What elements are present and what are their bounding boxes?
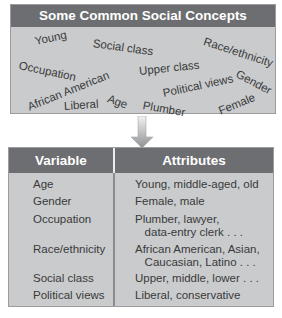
variables-table: Variable Attributes Age Young, middle-ag… [8,147,274,307]
cell-attributes: Liberal, conservative [135,289,240,302]
header-variable: Variable [9,148,113,173]
concepts-panel: Some Common Social Concepts Young Social… [10,4,276,114]
concept-word: Young [34,28,68,46]
cell-attributes: Plumber, lawyer, data-entry clerk . . . [135,213,243,239]
concept-word: Age [106,92,129,110]
header-divider [113,148,115,173]
cell-variable: Political views [33,289,105,302]
concepts-title: Some Common Social Concepts [11,5,275,27]
cell-variable: Occupation [33,213,91,226]
concept-word: Political views [162,72,235,99]
concept-word: Liberal [64,98,99,112]
down-arrow-icon [131,116,153,148]
cell-variable: Race/ethnicity [33,243,105,256]
cell-attributes: Female, male [135,195,205,208]
concept-word: Social class [92,37,154,57]
cell-variable: Social class [33,272,94,285]
concept-word: Race/ethnicity [202,35,274,69]
cell-variable: Age [33,178,53,191]
concept-word: Female [217,91,257,116]
concept-word: Gender [234,68,274,97]
header-attributes: Attributes [115,148,273,173]
cell-attributes: Upper, middle, lower . . . [135,272,259,285]
concept-word: Upper class [138,59,200,77]
concept-word: Occupation [18,59,77,83]
cell-variable: Gender [33,195,71,208]
cell-attributes: Young, middle-aged, old [135,178,259,191]
cell-attributes: African American, Asian, Caucasian, Lati… [135,243,260,269]
